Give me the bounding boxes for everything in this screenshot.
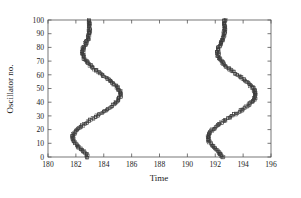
y-tick-label: 70 bbox=[36, 57, 44, 66]
x-tick-label: 184 bbox=[98, 160, 110, 169]
data-point-group bbox=[71, 19, 257, 159]
y-tick-label: 100 bbox=[33, 16, 45, 25]
x-tick-label: 194 bbox=[237, 160, 249, 169]
x-tick-label: 188 bbox=[154, 160, 166, 169]
plot-frame bbox=[48, 20, 271, 157]
y-tick-label: 90 bbox=[36, 29, 44, 38]
y-axis-tick-marks bbox=[48, 20, 271, 157]
y-tick-label: 60 bbox=[36, 71, 44, 80]
x-tick-label: 186 bbox=[126, 160, 138, 169]
y-tick-label: 0 bbox=[40, 153, 44, 162]
y-tick-label: 50 bbox=[36, 84, 44, 93]
x-tick-label: 192 bbox=[210, 160, 222, 169]
y-tick-label: 10 bbox=[36, 139, 44, 148]
y-tick-label: 30 bbox=[36, 112, 44, 121]
y-tick-label: 80 bbox=[36, 43, 44, 52]
x-tick-label: 196 bbox=[265, 160, 277, 169]
x-axis-tick-marks bbox=[48, 20, 271, 157]
y-axis-tick-labels: 0102030405060708090100 bbox=[33, 16, 45, 162]
figure-container: 180182184186188190192194196 010203040506… bbox=[0, 0, 301, 198]
x-tick-label: 180 bbox=[42, 160, 54, 169]
x-tick-label: 182 bbox=[70, 160, 82, 169]
scatter-plot: 180182184186188190192194196 010203040506… bbox=[0, 0, 301, 198]
x-tick-label: 190 bbox=[182, 160, 194, 169]
x-axis-title: Time bbox=[150, 173, 169, 183]
y-tick-label: 40 bbox=[36, 98, 44, 107]
y-axis-title: Oscillator no. bbox=[5, 65, 15, 114]
x-axis-tick-labels: 180182184186188190192194196 bbox=[42, 160, 277, 169]
y-tick-label: 20 bbox=[36, 125, 44, 134]
